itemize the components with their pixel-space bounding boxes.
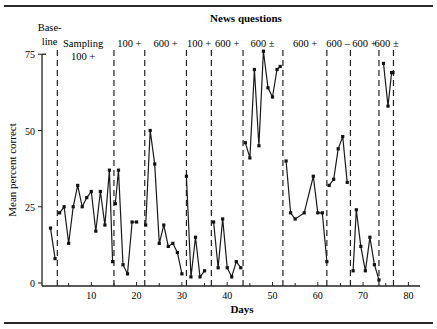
- data-point: [235, 260, 238, 263]
- data-point: [94, 230, 97, 233]
- series-line: [186, 176, 204, 277]
- data-point: [332, 178, 335, 181]
- data-point: [253, 68, 256, 71]
- series-line: [329, 137, 347, 186]
- axes: 02550751020304050607080: [25, 49, 420, 301]
- data-point: [312, 175, 315, 178]
- phase-label: Base-line: [38, 22, 62, 47]
- x-tick-label: 60: [313, 290, 323, 301]
- data-point: [391, 71, 394, 74]
- data-point: [359, 245, 362, 248]
- data-point: [72, 205, 75, 208]
- data-point: [194, 236, 197, 239]
- series-line: [60, 170, 113, 261]
- data-point: [189, 275, 192, 278]
- data-point: [126, 272, 129, 275]
- x-tick-label: 40: [222, 290, 232, 301]
- data-point: [171, 242, 174, 245]
- data-point: [103, 223, 106, 226]
- data-point: [203, 269, 206, 272]
- data-point: [230, 275, 233, 278]
- x-axis-label: Days: [230, 303, 254, 315]
- data-point: [226, 266, 229, 269]
- y-tick-label: 50: [25, 126, 35, 137]
- data-point: [244, 141, 247, 144]
- y-axis-label: Mean percent correct: [6, 123, 18, 216]
- data-point: [49, 227, 52, 230]
- data-point: [377, 278, 380, 281]
- phase-label: 100 +: [71, 51, 95, 62]
- y-tick-label: 75: [25, 49, 35, 60]
- data-point: [135, 220, 138, 223]
- data-point: [289, 211, 292, 214]
- data-point: [257, 144, 260, 147]
- data-point: [271, 95, 274, 98]
- phase-label: Sampling: [63, 38, 104, 49]
- phase-label: 100 +: [187, 38, 211, 49]
- data-point: [167, 245, 170, 248]
- data-point: [346, 181, 349, 184]
- data-point: [325, 260, 328, 263]
- data-point: [90, 190, 93, 193]
- data-point: [321, 211, 324, 214]
- data-point: [121, 263, 124, 266]
- data-point: [158, 242, 161, 245]
- x-tick-label: 10: [86, 290, 96, 301]
- data-point: [382, 62, 385, 65]
- data-point: [117, 169, 120, 172]
- data-point: [58, 211, 61, 214]
- data-point: [355, 208, 358, 211]
- data-point: [284, 159, 287, 162]
- phase-labels: Base-lineSampling100 +100 +600 +100 +600…: [38, 22, 399, 62]
- data-point: [108, 169, 111, 172]
- data-point: [149, 129, 152, 132]
- data-point: [303, 211, 306, 214]
- data-point: [111, 260, 114, 263]
- x-tick-label: 30: [177, 290, 187, 301]
- data-point: [239, 266, 242, 269]
- data-point: [162, 223, 165, 226]
- data-point: [76, 184, 79, 187]
- series-line: [51, 228, 56, 259]
- data-point: [153, 162, 156, 165]
- data-point: [266, 86, 269, 89]
- data-point: [248, 156, 251, 159]
- phase-label: 600 ±: [250, 38, 274, 49]
- data-point: [85, 196, 88, 199]
- phase-label: 600 +: [293, 38, 317, 49]
- phase-label: 600 ±: [375, 38, 399, 49]
- x-tick-label: 80: [403, 290, 413, 301]
- data-point: [262, 50, 265, 53]
- phase-label-line: line: [42, 36, 58, 47]
- phase-label: 600 +: [153, 38, 177, 49]
- data-point: [114, 202, 117, 205]
- data-point: [373, 263, 376, 266]
- phase-label-line: Base-: [38, 22, 62, 33]
- line-chart: 02550751020304050607080 Base-lineSamplin…: [0, 0, 437, 329]
- y-tick-label: 25: [25, 202, 35, 213]
- x-tick-label: 20: [132, 290, 142, 301]
- series-line: [245, 51, 280, 158]
- phase-label: 600 –: [326, 38, 350, 49]
- series-line: [384, 63, 394, 106]
- data-point: [180, 272, 183, 275]
- data-point: [221, 217, 224, 220]
- data-point: [316, 211, 319, 214]
- data-series: [49, 50, 395, 282]
- phase-label: 100 +: [117, 38, 141, 49]
- phase-label: 600 +: [215, 38, 239, 49]
- data-point: [341, 135, 344, 138]
- data-point: [337, 147, 340, 150]
- data-point: [275, 68, 278, 71]
- data-point: [176, 251, 179, 254]
- data-point: [53, 257, 56, 260]
- data-point: [368, 236, 371, 239]
- data-point: [67, 242, 70, 245]
- data-point: [279, 65, 282, 68]
- data-point: [212, 220, 215, 223]
- data-point: [352, 269, 355, 272]
- x-tick-label: 70: [358, 290, 368, 301]
- data-point: [130, 220, 133, 223]
- data-point: [144, 223, 147, 226]
- data-point: [294, 217, 297, 220]
